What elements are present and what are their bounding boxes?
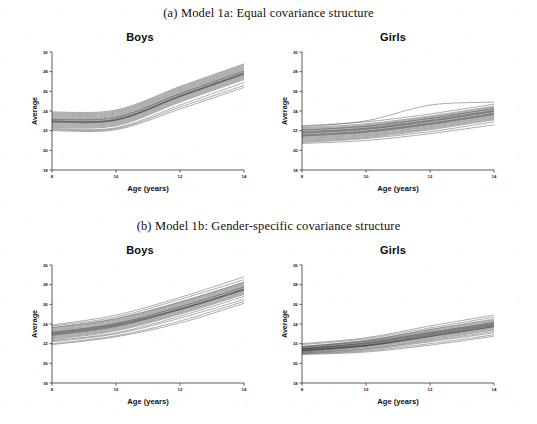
x-tick-label: 12 — [178, 174, 183, 179]
y-tick-label: 24 — [43, 322, 48, 327]
series-line — [302, 111, 494, 133]
series-line — [52, 85, 244, 130]
y-tick-label: 20 — [43, 361, 48, 366]
y-tick-label: 24 — [293, 109, 298, 114]
plot-area-a-girls: 182022242628308101214Age (years)Average — [272, 44, 500, 196]
chart-panel-a-girls: 182022242628308101214Age (years)Average — [272, 44, 500, 196]
y-axis-title: Average — [30, 97, 39, 125]
x-tick-label: 10 — [364, 174, 369, 179]
y-tick-label: 30 — [43, 263, 48, 268]
y-tick-label: 28 — [293, 69, 298, 74]
x-tick-label: 12 — [178, 387, 183, 392]
axis-lines — [302, 265, 494, 383]
series-line — [52, 282, 244, 327]
y-tick-label: 26 — [43, 302, 48, 307]
y-axis-title: Average — [280, 97, 289, 125]
chart-panel-b-girls: 182022242628308101214Age (years)Average — [272, 257, 500, 409]
axis-lines — [302, 52, 494, 170]
x-tick-label: 12 — [428, 174, 433, 179]
panel-title-b-boys: Boys — [95, 244, 185, 256]
y-tick-label: 24 — [43, 109, 48, 114]
y-tick-label: 18 — [43, 168, 48, 173]
plot-area-b-girls: 182022242628308101214Age (years)Average — [272, 257, 500, 409]
x-tick-label: 10 — [114, 387, 119, 392]
y-tick-label: 26 — [293, 89, 298, 94]
x-tick-label: 8 — [51, 387, 54, 392]
y-tick-label: 22 — [293, 341, 298, 346]
y-tick-label: 20 — [293, 361, 298, 366]
panel-title-a-girls: Girls — [348, 31, 438, 43]
y-tick-label: 28 — [43, 69, 48, 74]
x-axis-title: Age (years) — [377, 184, 419, 193]
x-tick-label: 14 — [242, 387, 247, 392]
y-tick-label: 28 — [293, 282, 298, 287]
figure-caption-a: (a) Model 1a: Equal covariance structure — [0, 6, 537, 21]
plot-area-b-boys: 182022242628308101214Age (years)Average — [22, 257, 250, 409]
y-tick-label: 24 — [293, 322, 298, 327]
y-tick-label: 20 — [43, 148, 48, 153]
x-tick-label: 8 — [301, 174, 304, 179]
x-tick-label: 10 — [364, 387, 369, 392]
y-tick-label: 28 — [43, 282, 48, 287]
x-tick-label: 14 — [242, 174, 247, 179]
series-line — [52, 288, 244, 333]
x-axis-title: Age (years) — [127, 184, 169, 193]
x-tick-label: 8 — [51, 174, 54, 179]
chart-panel-a-boys: 182022242628308101214Age (years)Average — [22, 44, 250, 196]
y-tick-label: 18 — [293, 168, 298, 173]
x-tick-label: 8 — [301, 387, 304, 392]
chart-panel-b-boys: 182022242628308101214Age (years)Average — [22, 257, 250, 409]
series-line — [302, 321, 494, 347]
y-tick-label: 30 — [293, 263, 298, 268]
figure-caption-b: (b) Model 1b: Gender-specific covariance… — [0, 219, 537, 234]
y-tick-label: 20 — [293, 148, 298, 153]
x-tick-label: 14 — [492, 174, 497, 179]
x-axis-title: Age (years) — [127, 397, 169, 406]
x-tick-label: 10 — [114, 174, 119, 179]
y-tick-label: 22 — [43, 128, 48, 133]
y-tick-label: 18 — [43, 381, 48, 386]
y-tick-label: 30 — [293, 50, 298, 55]
y-tick-label: 22 — [43, 341, 48, 346]
plot-area-a-boys: 182022242628308101214Age (years)Average — [22, 44, 250, 196]
panel-title-b-girls: Girls — [348, 244, 438, 256]
y-tick-label: 18 — [293, 381, 298, 386]
x-tick-label: 14 — [492, 387, 497, 392]
x-axis-title: Age (years) — [377, 397, 419, 406]
y-tick-label: 26 — [293, 302, 298, 307]
figure-page: (a) Model 1a: Equal covariance structure… — [0, 0, 537, 424]
y-tick-label: 30 — [43, 50, 48, 55]
y-tick-label: 26 — [43, 89, 48, 94]
y-axis-title: Average — [280, 310, 289, 338]
panel-title-a-boys: Boys — [95, 31, 185, 43]
y-axis-title: Average — [30, 310, 39, 338]
x-tick-label: 12 — [428, 387, 433, 392]
y-tick-label: 22 — [293, 128, 298, 133]
